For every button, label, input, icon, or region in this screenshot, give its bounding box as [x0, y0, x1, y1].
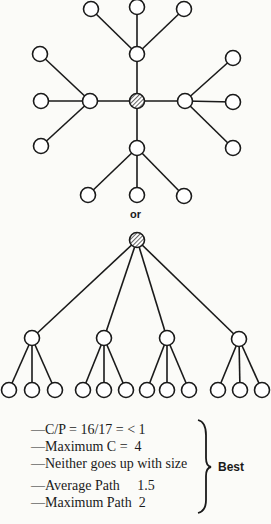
- stat-avg-path: —Average Path 1.5: [31, 477, 187, 494]
- right-brace: [198, 420, 211, 513]
- stats-list: —C/P = 16/17 = < 1 —Maximum C = 4 —Neith…: [31, 421, 187, 511]
- tree-root-node: [130, 233, 145, 248]
- stat-cp-ratio: —C/P = 16/17 = < 1: [31, 421, 187, 438]
- star-center-node: [130, 94, 145, 109]
- stat-max-c: —Maximum C = 4: [31, 438, 187, 455]
- stat-max-path: —Maximum Path 2: [31, 494, 187, 511]
- stat-size: —Neither goes up with size: [31, 455, 187, 472]
- tree-network-nodes: [2, 233, 270, 398]
- or-separator: or: [0, 208, 271, 220]
- verdict-label: Best: [218, 460, 244, 474]
- tree-network-edges: [9, 240, 262, 390]
